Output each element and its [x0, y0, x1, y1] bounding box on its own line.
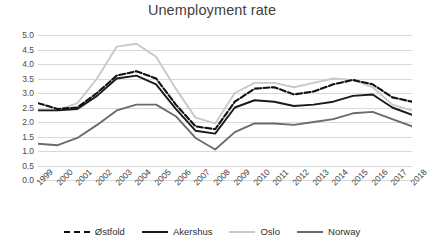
- series-line-oslo: [38, 44, 412, 124]
- legend-swatch-icon: [297, 231, 323, 233]
- legend-item-stfold[interactable]: Østfold: [64, 227, 125, 237]
- legend: ØstfoldAkershusOsloNorway: [0, 222, 424, 242]
- legend-item-norway[interactable]: Norway: [297, 227, 360, 237]
- series-line-norway: [38, 105, 412, 150]
- legend-label: Akershus: [173, 227, 213, 237]
- y-axis-tick-label: 0.0: [0, 176, 34, 185]
- legend-label: Norway: [328, 227, 360, 237]
- y-axis-tick-label: 4.0: [0, 60, 34, 69]
- y-axis-tick-label: 1.0: [0, 147, 34, 156]
- legend-item-oslo[interactable]: Oslo: [229, 227, 280, 237]
- x-axis: 1999200020012002200320042005200620072008…: [38, 181, 412, 217]
- y-axis-tick-label: 2.5: [0, 104, 34, 113]
- y-axis-tick-label: 2.0: [0, 118, 34, 127]
- legend-label: Oslo: [260, 227, 280, 237]
- legend-swatch-icon: [64, 231, 90, 233]
- series-line-akershus: [38, 76, 412, 134]
- legend-swatch-icon: [142, 231, 168, 233]
- legend-swatch-icon: [229, 231, 255, 233]
- y-axis-tick-label: 1.5: [0, 133, 34, 142]
- y-axis-tick-label: 4.5: [0, 46, 34, 55]
- plot-area: [38, 35, 412, 180]
- y-axis-tick-label: 3.0: [0, 89, 34, 98]
- legend-label: Østfold: [95, 227, 125, 237]
- chart-title: Unemployment rate: [0, 2, 424, 18]
- legend-item-akershus[interactable]: Akershus: [142, 227, 213, 237]
- y-axis-tick-label: 0.5: [0, 162, 34, 171]
- y-axis-tick-label: 3.5: [0, 75, 34, 84]
- series-lines: [38, 35, 412, 180]
- y-axis: 5.04.54.03.53.02.52.01.51.00.50.0: [0, 28, 34, 188]
- y-axis-tick-label: 5.0: [0, 31, 34, 40]
